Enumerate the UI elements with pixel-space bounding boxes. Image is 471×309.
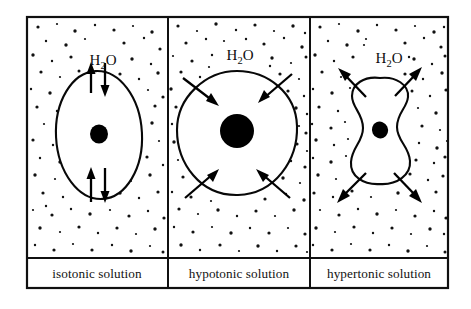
h2o-element-o: O (106, 52, 117, 68)
caption-isotonic: isotonic solution (52, 266, 142, 281)
h2o-element-h: H (227, 47, 238, 63)
caption-hypotonic: hypotonic solution (189, 266, 290, 281)
panel-captions: isotonic solution hypotonic solution hyp… (52, 266, 431, 281)
h2o-element-o: O (392, 50, 403, 66)
h2o-element-h: H (90, 52, 101, 68)
osmosis-figure: H2O (0, 0, 471, 309)
h2o-element-o: O (243, 47, 254, 63)
figure-canvas: H2O (0, 0, 471, 309)
isotonic-cell-nucleus (90, 125, 108, 144)
h2o-element-h: H (376, 50, 387, 66)
hypotonic-cell-nucleus (220, 114, 254, 148)
caption-hypertonic: hypertonic solution (327, 266, 431, 281)
